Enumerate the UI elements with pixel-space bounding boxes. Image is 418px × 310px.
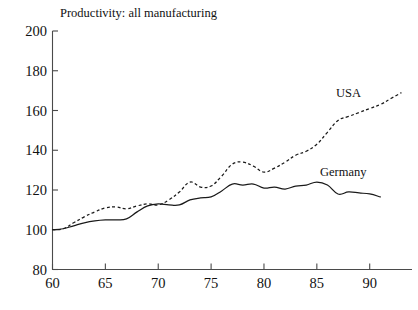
y-axis-tick-labels: 80100120140160180200 xyxy=(25,23,47,278)
series-label-germany: Germany xyxy=(320,165,367,179)
y-tick-label: 160 xyxy=(25,103,47,119)
y-tick-label: 200 xyxy=(25,23,47,39)
x-axis-ticks xyxy=(53,264,370,270)
y-tick-label: 120 xyxy=(25,182,47,198)
series-label-usa: USA xyxy=(336,86,361,100)
y-tick-label: 100 xyxy=(25,222,47,238)
x-tick-label: 75 xyxy=(204,275,219,291)
productivity-line-chart: Productivity: all manufacturing 80100120… xyxy=(0,0,418,310)
x-tick-label: 60 xyxy=(45,275,60,291)
x-tick-label: 90 xyxy=(362,275,377,291)
series-line-usa xyxy=(53,93,402,230)
y-axis: 80100120140160180200 xyxy=(25,23,58,278)
chart-title: Productivity: all manufacturing xyxy=(60,6,218,20)
chart-canvas: Productivity: all manufacturing 80100120… xyxy=(0,0,418,310)
data-series-group xyxy=(53,93,402,230)
x-axis: 60657075808590 xyxy=(45,264,412,292)
x-tick-label: 65 xyxy=(98,275,113,291)
y-tick-label: 140 xyxy=(25,142,47,158)
y-tick-label: 180 xyxy=(25,63,47,79)
x-axis-tick-labels: 60657075808590 xyxy=(45,275,377,291)
x-tick-label: 70 xyxy=(151,275,166,291)
x-tick-label: 85 xyxy=(310,275,325,291)
y-axis-ticks xyxy=(53,31,59,270)
x-tick-label: 80 xyxy=(257,275,272,291)
series-line-germany xyxy=(53,182,381,230)
